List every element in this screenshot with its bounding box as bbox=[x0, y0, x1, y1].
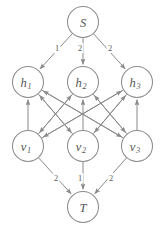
graph-canvas: Sh1h2h3v1v2v3T 122212 bbox=[0, 0, 165, 229]
node-h1[interactable]: h1 bbox=[13, 67, 44, 98]
node-h3[interactable]: h3 bbox=[122, 67, 153, 98]
flow-network-diagram: Sh1h2h3v1v2v3T 122212 bbox=[0, 0, 165, 229]
edges-layer bbox=[28, 34, 137, 194]
edge-label-v2-to-T: 1 bbox=[78, 174, 82, 183]
node-T[interactable]: T bbox=[68, 192, 99, 223]
edge-h2-to-v3 bbox=[93, 94, 125, 132]
node-label-T: T bbox=[80, 201, 88, 215]
edge-label-v1-to-T: 2 bbox=[54, 174, 58, 183]
edge-label-v3-to-T: 2 bbox=[109, 174, 113, 183]
node-v3[interactable]: v3 bbox=[122, 131, 153, 162]
node-S[interactable]: S bbox=[68, 7, 99, 38]
edge-label-S-to-h1: 1 bbox=[55, 44, 59, 53]
node-v1[interactable]: v1 bbox=[13, 131, 44, 162]
edge-h1-to-v2 bbox=[38, 94, 71, 132]
edge-label-S-to-h2: 2 bbox=[78, 44, 82, 53]
edge-h3-to-v2 bbox=[94, 94, 126, 132]
node-label-S: S bbox=[80, 16, 87, 30]
edge-h2-to-v1 bbox=[40, 94, 73, 132]
node-h2[interactable]: h2 bbox=[68, 67, 99, 98]
edge-label-S-to-h3: 2 bbox=[108, 44, 112, 53]
node-v2[interactable]: v2 bbox=[68, 131, 99, 162]
